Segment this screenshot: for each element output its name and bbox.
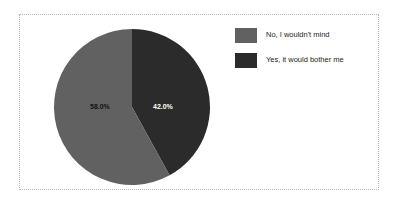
legend-swatch-no-i-wouldnt-mind bbox=[235, 28, 257, 43]
pie-chart: 58.0% 42.0% bbox=[53, 28, 211, 186]
chart-legend: No, I wouldn't mind Yes, it would bother… bbox=[235, 27, 370, 77]
legend-item-no-i-wouldnt-mind[interactable]: No, I wouldn't mind bbox=[235, 27, 370, 43]
legend-label-yes-it-would-bother-me: Yes, it would bother me bbox=[266, 56, 344, 64]
chart-frame: 58.0% 42.0% No, I wouldn't mind Yes, it … bbox=[19, 14, 379, 190]
pie-slice-label-yes-it-would-bother-me: 42.0% bbox=[153, 103, 173, 110]
pie-chart-svg bbox=[53, 28, 211, 186]
legend-item-yes-it-would-bother-me[interactable]: Yes, it would bother me bbox=[235, 52, 370, 68]
legend-swatch-yes-it-would-bother-me bbox=[235, 53, 257, 68]
pie-slice-label-no-i-wouldnt-mind: 58.0% bbox=[90, 103, 110, 110]
legend-label-no-i-wouldnt-mind: No, I wouldn't mind bbox=[266, 31, 330, 39]
